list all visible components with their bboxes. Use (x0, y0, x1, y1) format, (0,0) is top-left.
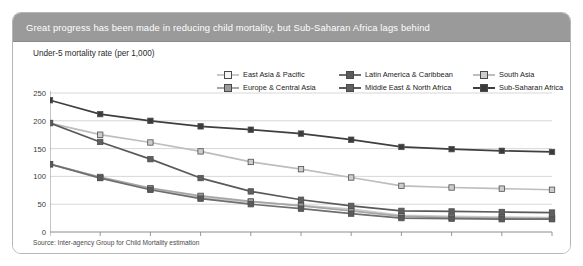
series-marker (198, 149, 203, 154)
series-marker (298, 166, 303, 171)
chart-title-banner: Great progress has been made in reducing… (13, 13, 570, 42)
y-tick-label: 250 (20, 89, 46, 98)
series-line (50, 100, 552, 152)
series-marker (549, 149, 554, 154)
y-tick-label: 200 (20, 116, 46, 125)
series-marker (399, 144, 404, 149)
series-marker (449, 216, 454, 221)
source-note: Source: Inter-agency Group for Child Mor… (33, 239, 199, 246)
y-tick-label: 150 (20, 144, 46, 153)
series-marker (50, 161, 53, 166)
series-marker (148, 118, 153, 123)
series-marker (399, 183, 404, 188)
screenshot-root: Great progress has been made in reducing… (0, 0, 583, 266)
y-tick-label: 50 (20, 200, 46, 209)
legend-swatch-icon (339, 70, 361, 79)
series-marker (499, 186, 504, 191)
y-tick-label: 0 (20, 228, 46, 237)
series-marker (499, 209, 504, 214)
series-marker (50, 98, 53, 103)
chart-card: Great progress has been made in reducing… (12, 12, 571, 254)
series-marker (298, 197, 303, 202)
series-marker (549, 210, 554, 215)
series-marker (98, 132, 103, 137)
series-marker (449, 146, 454, 151)
series-marker (449, 209, 454, 214)
series-marker (349, 203, 354, 208)
series-marker (399, 215, 404, 220)
series-marker (248, 127, 253, 132)
series-marker (499, 217, 504, 222)
legend-label: South Asia (499, 70, 534, 79)
y-axis-title: Under-5 mortality rate (per 1,000) (33, 49, 155, 58)
series-marker (248, 159, 253, 164)
legend-label: Latin America & Caribbean (365, 70, 453, 79)
legend-item: Latin America & Caribbean (339, 68, 473, 81)
series-marker (549, 187, 554, 192)
legend-swatch-icon (473, 70, 495, 79)
chart-panel: Under-5 mortality rate (per 1,000) East … (13, 42, 570, 254)
series-marker (248, 189, 253, 194)
legend-item: South Asia (473, 68, 567, 81)
series-marker (298, 131, 303, 136)
legend-label: East Asia & Pacific (243, 70, 305, 79)
series-marker (298, 206, 303, 211)
series-marker (248, 202, 253, 207)
series-marker (399, 208, 404, 213)
series-marker (148, 140, 153, 145)
series-marker (98, 139, 103, 144)
y-tick-label: 100 (20, 172, 46, 181)
series-marker (50, 120, 53, 125)
series-marker (349, 137, 354, 142)
legend-item: East Asia & Pacific (217, 68, 339, 81)
series-marker (198, 175, 203, 180)
page-title: Great progress has been made in reducing… (13, 22, 430, 33)
series-marker (449, 185, 454, 190)
legend-swatch-icon (217, 70, 239, 79)
series-marker (198, 196, 203, 201)
series-marker (499, 148, 504, 153)
series-marker (98, 175, 103, 180)
series-marker (349, 175, 354, 180)
series-marker (98, 111, 103, 116)
series-marker (148, 187, 153, 192)
series-marker (549, 217, 554, 222)
series-marker (349, 211, 354, 216)
plot-area: 050100150200250 197019751980198519901995… (50, 89, 558, 237)
series-marker (148, 156, 153, 161)
line-chart-svg (50, 89, 558, 237)
series-marker (198, 124, 203, 129)
